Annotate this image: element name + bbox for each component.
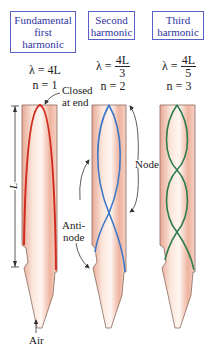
antinode-arrow-down bbox=[76, 243, 89, 268]
closed-at-end-label: Closed at end bbox=[62, 84, 93, 108]
antinode-label-line: node bbox=[62, 231, 85, 243]
pipe-third bbox=[160, 105, 195, 328]
closed-label-line: Closed bbox=[62, 84, 93, 96]
antinode-label: Anti- node bbox=[62, 219, 85, 243]
air-label: Air bbox=[29, 334, 44, 346]
node-arrow-down bbox=[130, 168, 138, 212]
node-arrow-up bbox=[130, 106, 138, 160]
closed-end-arrow bbox=[45, 93, 60, 104]
length-label: L bbox=[7, 182, 19, 190]
pipe-second bbox=[92, 105, 126, 328]
antinode-arrow-up bbox=[80, 160, 89, 200]
node-label: Node bbox=[135, 158, 159, 170]
pipe-fundamental bbox=[22, 105, 57, 328]
pipe-diagram bbox=[0, 0, 215, 349]
closed-label-line: at end bbox=[62, 96, 93, 108]
antinode-label-line: Anti- bbox=[62, 219, 85, 231]
